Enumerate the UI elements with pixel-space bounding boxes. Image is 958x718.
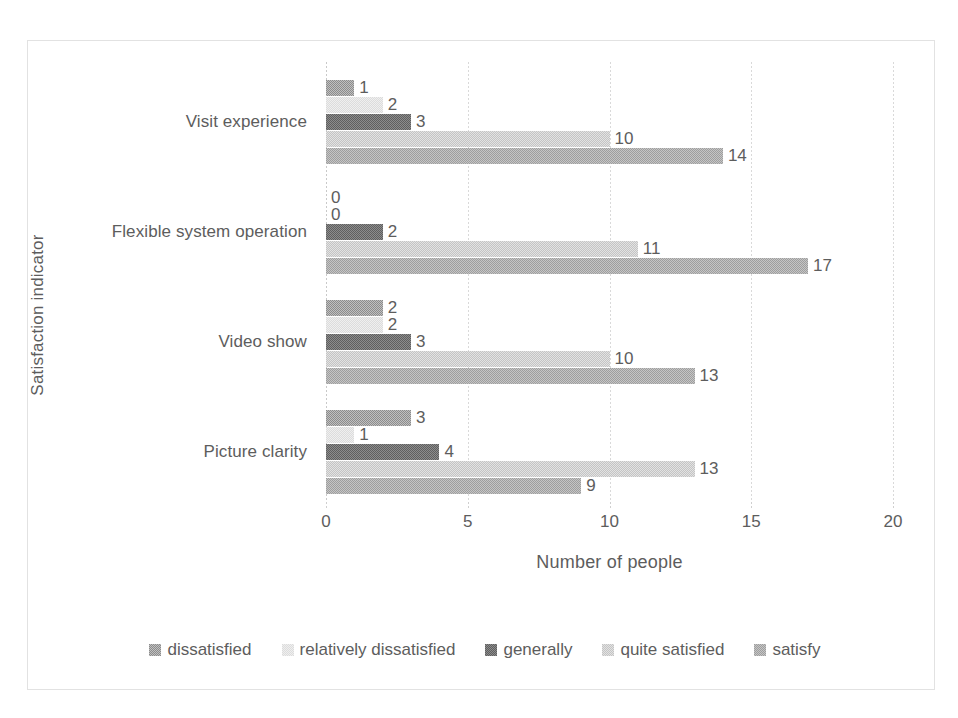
x-tick-15 — [751, 502, 752, 509]
chart-legend: dissatisfiedrelatively dissatisfiedgener… — [60, 640, 910, 660]
x-tick-10 — [610, 502, 611, 509]
bar-dissatisfied[interactable] — [326, 300, 383, 316]
bar-value-label: 1 — [354, 78, 368, 98]
category-label-flexible-system-operation: Flexible system operation — [57, 222, 307, 242]
bar-relatively-dissatisfied[interactable] — [326, 317, 383, 333]
bar-relatively-dissatisfied[interactable] — [326, 427, 354, 443]
legend-item-quite-satisfied[interactable]: quite satisfied — [602, 640, 724, 660]
bar-value-label: 2 — [383, 222, 397, 242]
bar-row: 9 — [326, 478, 893, 494]
bar-group: 1231014 — [326, 80, 893, 165]
x-axis-title: Number of people — [326, 552, 893, 573]
legend-swatch-icon — [282, 644, 294, 656]
bar-value-label: 14 — [723, 146, 747, 166]
category-label-video-show: Video show — [57, 332, 307, 352]
bar-satisfy[interactable] — [326, 368, 695, 384]
bar-satisfy[interactable] — [326, 258, 808, 274]
bar-generally[interactable] — [326, 114, 411, 130]
bar-row: 2 — [326, 97, 893, 113]
bar-group: 2231013 — [326, 300, 893, 385]
bar-value-label: 17 — [808, 256, 832, 276]
category-label-visit-experience: Visit experience — [57, 112, 307, 132]
bar-row: 1 — [326, 427, 893, 443]
x-tick-5 — [468, 502, 469, 509]
bar-row: 1 — [326, 80, 893, 96]
bar-value-label: 11 — [638, 239, 661, 259]
legend-label: satisfy — [772, 640, 820, 660]
bar-row: 3 — [326, 114, 893, 130]
x-tick-20 — [893, 502, 894, 509]
bar-row: 2 — [326, 317, 893, 333]
bar-row: 0 — [326, 190, 893, 206]
bar-relatively-dissatisfied[interactable] — [326, 97, 383, 113]
bar-value-label: 1 — [354, 425, 368, 445]
bar-value-label: 3 — [411, 332, 425, 352]
plot-area: 123101400211172231013314139 — [326, 62, 893, 502]
bar-value-label: 3 — [411, 408, 425, 428]
bar-value-label: 3 — [411, 112, 425, 132]
bar-row: 2 — [326, 224, 893, 240]
bar-quite-satisfied[interactable] — [326, 241, 638, 257]
bar-row: 3 — [326, 334, 893, 350]
bar-value-label: 2 — [383, 95, 397, 115]
legend-item-satisfy[interactable]: satisfy — [754, 640, 820, 660]
bar-row: 10 — [326, 351, 893, 367]
bar-row: 4 — [326, 444, 893, 460]
x-tick-0 — [326, 502, 327, 509]
bar-quite-satisfied[interactable] — [326, 131, 610, 147]
bar-satisfy[interactable] — [326, 478, 581, 494]
bar-row: 10 — [326, 131, 893, 147]
bar-row: 3 — [326, 410, 893, 426]
bar-value-label: 2 — [383, 315, 397, 335]
bar-generally[interactable] — [326, 224, 383, 240]
bar-value-label: 10 — [610, 129, 634, 149]
bar-group: 314139 — [326, 410, 893, 495]
x-tick-label-15: 15 — [742, 512, 761, 532]
y-axis-title-text: Satisfaction indicator — [28, 234, 48, 395]
bar-row: 11 — [326, 241, 893, 257]
legend-label: generally — [503, 640, 572, 660]
bar-dissatisfied[interactable] — [326, 80, 354, 96]
bar-row: 13 — [326, 461, 893, 477]
bar-value-label: 13 — [695, 366, 719, 386]
bar-quite-satisfied[interactable] — [326, 461, 695, 477]
legend-label: relatively dissatisfied — [300, 640, 456, 660]
bar-row: 14 — [326, 148, 893, 164]
x-tick-label-10: 10 — [600, 512, 619, 532]
bar-generally[interactable] — [326, 444, 439, 460]
bar-group: 0021117 — [326, 190, 893, 275]
x-tick-label-20: 20 — [884, 512, 903, 532]
y-axis-title: Satisfaction indicator — [26, 170, 50, 460]
legend-item-generally[interactable]: generally — [485, 640, 572, 660]
bar-value-label: 4 — [439, 442, 453, 462]
bar-row: 2 — [326, 300, 893, 316]
x-tick-label-0: 0 — [321, 512, 330, 532]
bar-value-label: 9 — [581, 476, 595, 496]
legend-label: quite satisfied — [620, 640, 724, 660]
legend-label: dissatisfied — [167, 640, 251, 660]
category-axis-labels: Visit experienceFlexible system operatio… — [60, 62, 315, 502]
gridline-20 — [893, 62, 894, 502]
legend-item-relatively-dissatisfied[interactable]: relatively dissatisfied — [282, 640, 456, 660]
legend-swatch-icon — [602, 644, 614, 656]
legend-swatch-icon — [149, 644, 161, 656]
bar-row: 13 — [326, 368, 893, 384]
legend-item-dissatisfied[interactable]: dissatisfied — [149, 640, 251, 660]
legend-swatch-icon — [485, 644, 497, 656]
bar-row: 0 — [326, 207, 893, 223]
x-axis: 05101520 — [326, 502, 893, 536]
bar-satisfy[interactable] — [326, 148, 723, 164]
bar-generally[interactable] — [326, 334, 411, 350]
x-tick-label-5: 5 — [463, 512, 472, 532]
bar-dissatisfied[interactable] — [326, 410, 411, 426]
bar-quite-satisfied[interactable] — [326, 351, 610, 367]
bar-value-label: 10 — [610, 349, 634, 369]
bar-value-label: 0 — [326, 205, 340, 225]
category-label-picture-clarity: Picture clarity — [57, 442, 307, 462]
legend-swatch-icon — [754, 644, 766, 656]
bar-value-label: 13 — [695, 459, 719, 479]
bar-row: 17 — [326, 258, 893, 274]
